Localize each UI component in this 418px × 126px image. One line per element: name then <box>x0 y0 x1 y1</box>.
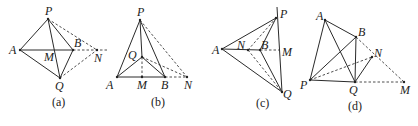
label-d-M: M <box>399 83 411 97</box>
label-c-A: A <box>211 43 220 57</box>
label-a-B: B <box>74 36 82 50</box>
label-a-Q: Q <box>55 79 64 93</box>
label-c-B: B <box>261 38 269 52</box>
label-b-N: N <box>183 78 193 92</box>
label-d-A: A <box>315 9 324 23</box>
label-c-P: P <box>279 7 288 21</box>
label-b-A: A <box>105 78 114 92</box>
label-c-Q: Q <box>283 87 292 101</box>
label-b-Q: Q <box>128 48 137 62</box>
label-b-P: P <box>136 5 145 19</box>
caption-c: (c) <box>256 96 269 110</box>
figure-a: P A B M N Q (a) <box>8 4 108 109</box>
label-b-B: B <box>161 78 169 92</box>
figure-b: P Q A M B N (b) <box>105 5 193 109</box>
label-a-N: N <box>93 51 103 65</box>
caption-d: (d) <box>348 99 362 113</box>
caption-a: (a) <box>52 95 65 109</box>
label-d-P: P <box>299 78 308 92</box>
geometry-figures: P A B M N Q (a) P Q A M B N (b) <box>0 0 418 126</box>
label-a-M: M <box>43 50 55 64</box>
caption-b: (b) <box>151 95 165 109</box>
label-a-A: A <box>8 43 17 57</box>
label-b-M: M <box>136 78 148 92</box>
label-c-N: N <box>236 38 246 52</box>
label-a-P: P <box>44 4 53 18</box>
figure-c: P A N B M Q (c) <box>211 7 293 110</box>
label-d-N: N <box>373 46 383 60</box>
label-d-B: B <box>358 25 366 39</box>
figure-d: A B N P Q M (d) <box>299 9 411 113</box>
label-d-Q: Q <box>349 83 358 97</box>
label-c-M: M <box>281 45 293 59</box>
